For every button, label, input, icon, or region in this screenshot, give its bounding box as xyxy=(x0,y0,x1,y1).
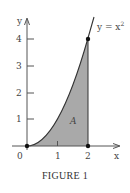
region-label: A xyxy=(69,116,77,126)
y-tick-3: 3 xyxy=(16,61,22,71)
figure-caption: FIGURE 1 xyxy=(42,170,88,181)
x-tick-1: 1 xyxy=(55,151,61,161)
x-axis-label: x xyxy=(114,151,119,161)
point-2-4 xyxy=(86,37,90,41)
shaded-region-A xyxy=(27,38,88,146)
point-2-0 xyxy=(86,144,90,148)
y-axis-label: y xyxy=(16,16,23,26)
origin-point xyxy=(25,144,29,148)
y-tick-1: 1 xyxy=(16,114,22,124)
y-tick-2: 2 xyxy=(16,88,22,98)
y-tick-4: 4 xyxy=(16,34,22,44)
curve-label: y = x2 xyxy=(96,20,124,32)
figure-diagram: y 4 3 2 1 0 1 2 x A y = x2 FIGURE 1 xyxy=(0,0,130,193)
origin-label: 0 xyxy=(17,151,23,161)
x-tick-2: 2 xyxy=(85,151,91,161)
